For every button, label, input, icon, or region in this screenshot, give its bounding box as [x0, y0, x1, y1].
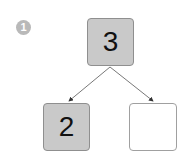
edge-right-arrow [110, 67, 153, 101]
root-node-value: 3 [103, 26, 119, 58]
edge-left-arrow [69, 67, 110, 101]
left-child-node: 2 [43, 103, 90, 151]
right-child-node-empty[interactable] [129, 103, 177, 151]
left-child-value: 2 [59, 111, 75, 143]
root-node: 3 [87, 18, 134, 66]
